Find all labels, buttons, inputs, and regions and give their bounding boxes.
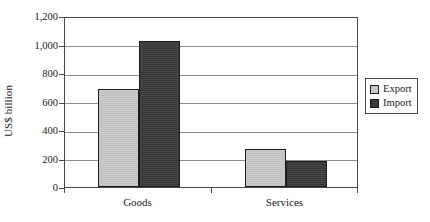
x-axis-tick-mark (64, 188, 65, 193)
legend-swatch-export-icon (370, 85, 379, 94)
x-axis-label-goods: Goods (123, 196, 152, 208)
y-axis-tick-label: 0 (0, 183, 58, 193)
x-axis-tick-group (64, 188, 358, 194)
plot-area (64, 17, 358, 188)
legend-label-export: Export (383, 84, 412, 94)
y-axis-tick-label: 600 (0, 98, 58, 108)
y-axis-tick-label: 800 (0, 69, 58, 79)
gridline (65, 75, 357, 76)
bar-services-import (286, 161, 327, 187)
bar-services-export (245, 149, 286, 187)
bar-goods-export (98, 89, 139, 187)
bar-goods-import (139, 41, 180, 187)
legend-item-export[interactable]: Export (370, 82, 412, 96)
legend-item-import[interactable]: Import (370, 96, 412, 110)
y-axis-tick-label: 1,200 (0, 12, 58, 22)
chart-legend: ExportImport (365, 78, 418, 114)
gridline (65, 46, 357, 47)
y-axis-tick-label: 400 (0, 126, 58, 136)
y-axis-tick-group: 02004006008001,0001,200 (0, 0, 64, 222)
x-axis-label-group: GoodsServices (64, 196, 358, 212)
x-axis-tick-mark (211, 188, 212, 193)
legend-swatch-import-icon (370, 99, 379, 108)
x-axis-tick-mark (357, 188, 358, 193)
legend-label-import: Import (383, 98, 412, 108)
y-axis-tick-label: 200 (0, 155, 58, 165)
y-axis-tick-label: 1,000 (0, 41, 58, 51)
x-axis-label-services: Services (266, 196, 303, 208)
bar-chart-figure: US$ billion 02004006008001,0001,200 Good… (0, 0, 430, 222)
